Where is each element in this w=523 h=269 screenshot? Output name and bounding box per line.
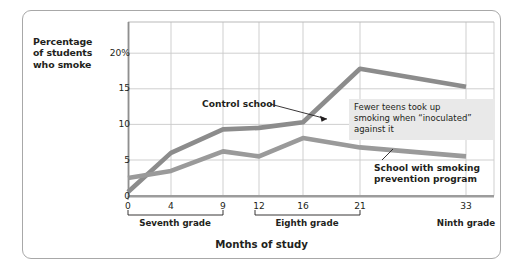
callout-box: Fewer teens took upsmoking when “inocula… bbox=[349, 99, 495, 140]
x-tick-label-9: 9 bbox=[203, 201, 243, 211]
x-tick-label-4: 4 bbox=[151, 201, 191, 211]
grade-label-ninth: Ninth grade bbox=[411, 218, 521, 228]
callout-line1: Fewer teens took up bbox=[354, 102, 440, 112]
y-tick-label-10: 10 bbox=[96, 119, 130, 129]
figure-container: Percentage of students who smoke 20% 15 … bbox=[0, 0, 523, 269]
y-tick-label-15: 15 bbox=[96, 83, 130, 93]
x-tick-label-21: 21 bbox=[340, 201, 380, 211]
y-tick-label-5: 5 bbox=[96, 155, 130, 165]
grade-label-eighth: Eighth grade bbox=[252, 218, 362, 228]
callout-line3: against it bbox=[354, 124, 394, 134]
annotation-prevention-line2: prevention program bbox=[374, 174, 477, 184]
callout-line2: smoking when “inoculated” bbox=[354, 113, 472, 123]
annotation-prevention-program: School with smoking prevention program bbox=[374, 163, 480, 185]
x-tick-label-12: 12 bbox=[239, 201, 279, 211]
grade-label-seventh: Seventh grade bbox=[120, 218, 230, 228]
y-axis-title: Percentage of students who smoke bbox=[33, 36, 92, 70]
x-tick-label-16: 16 bbox=[283, 201, 323, 211]
y-tick-label-0: 0 bbox=[96, 191, 130, 201]
y-axis-title-line1: Percentage of students who smoke bbox=[33, 36, 92, 70]
annotation-control-school: Control school bbox=[202, 99, 276, 110]
annotation-prevention-line1: School with smoking bbox=[374, 163, 480, 173]
y-tick-label-20: 20% bbox=[96, 48, 130, 58]
x-tick-label-33: 33 bbox=[446, 201, 486, 211]
x-tick-label-0: 0 bbox=[108, 201, 148, 211]
x-axis-title: Months of study bbox=[0, 239, 523, 250]
